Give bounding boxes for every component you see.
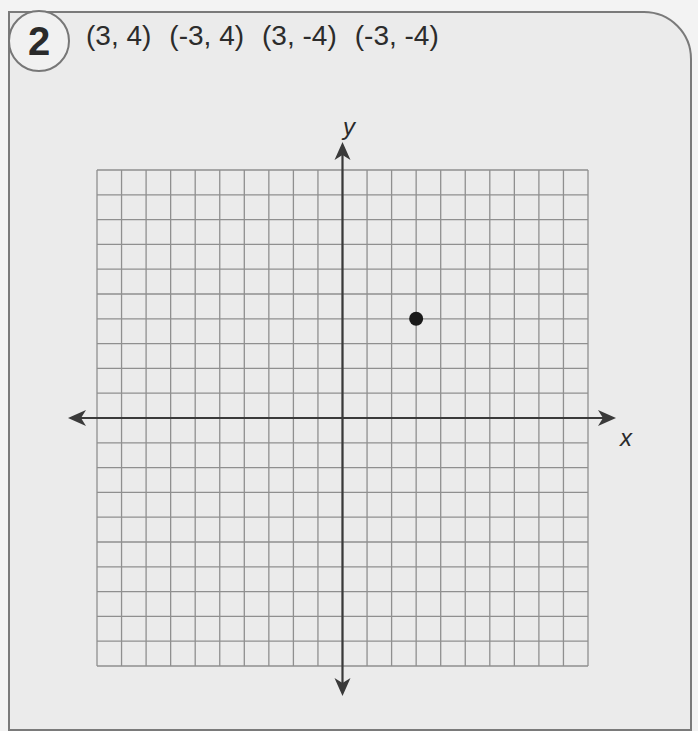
plotted-point [409,312,423,326]
plotted-points [409,312,423,326]
axes [68,142,616,696]
x-axis-label: x [620,424,632,452]
y-axis-label: y [343,113,355,141]
